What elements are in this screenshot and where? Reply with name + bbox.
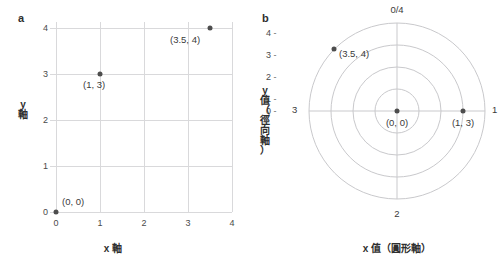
- panel-b-polar: b 0/4 1 2 3 4 - 3 -: [250, 0, 501, 267]
- x-tick-label-3: 3: [185, 218, 190, 228]
- gridline-vertical-0: [56, 22, 57, 212]
- y-tick-label-4: 4: [43, 23, 48, 33]
- polar-data-point-1-3: [461, 109, 466, 114]
- data-point-3.5-4: [208, 26, 213, 31]
- x-tick-label-2: 2: [141, 218, 146, 228]
- polar-plot-area: 0/4 1 2 3 4 - 3 - 2 - 1 - 0 - (0, 0) (1,…: [308, 22, 486, 200]
- gridline-vertical-2: [144, 22, 145, 212]
- data-point-label-3.5-4: (3.5, 4): [170, 34, 200, 45]
- polar-angle-label-top: 0/4: [390, 4, 403, 15]
- gridline-horizontal-2: [50, 120, 232, 121]
- polar-radial-tick-1-dash: -: [271, 94, 277, 104]
- polar-data-point-3.5-4: [332, 47, 337, 52]
- polar-data-point-0-0: [395, 109, 400, 114]
- panel-a-cartesian: a 0 1 2 3 4 0 1 2 3 4: [0, 0, 250, 267]
- data-point-label-0-0: (0, 0): [62, 196, 84, 207]
- polar-y-axis-title-char-6: ）: [260, 146, 270, 156]
- x-tick-label-1: 1: [97, 218, 102, 228]
- gridline-horizontal-1: [50, 166, 232, 167]
- polar-radial-tick-2-dash: -: [271, 72, 277, 82]
- cartesian-plot-area: 0 1 2 3 4 0 1 2 3 4 (0, 0) (1, 3) (3.5, …: [56, 28, 232, 212]
- cartesian-x-axis-title: x 軸: [104, 240, 122, 255]
- data-point-0-0: [54, 210, 59, 215]
- y-tick-label-3: 3: [43, 69, 48, 79]
- gridline-vertical-1: [100, 22, 101, 212]
- polar-y-axis-title: y 值 （ 徑 向 軸 ）: [260, 86, 270, 156]
- data-point-label-1-3: (1, 3): [83, 79, 105, 90]
- polar-angle-label-bottom: 2: [394, 208, 399, 219]
- data-point-1-3: [98, 72, 103, 77]
- polar-data-point-label-3.5-4: (3.5, 4): [339, 48, 369, 59]
- gridline-horizontal-3: [50, 74, 232, 75]
- polar-radial-tick-4: 4 -: [266, 28, 277, 38]
- polar-radial-tick-3: 3 -: [266, 50, 277, 60]
- polar-radial-tick-2: 2 -: [266, 72, 277, 82]
- figure-container: a 0 1 2 3 4 0 1 2 3 4: [0, 0, 501, 267]
- y-tick-label-2: 2: [43, 115, 48, 125]
- polar-radial-tick-3-dash: -: [271, 50, 277, 60]
- panel-letter-a: a: [18, 12, 24, 24]
- gridline-horizontal-0: [50, 212, 232, 213]
- y-tick-label-1: 1: [43, 161, 48, 171]
- polar-angle-label-right: 1: [492, 104, 497, 115]
- x-tick-label-0: 0: [53, 218, 58, 228]
- gridline-vertical-3: [188, 22, 189, 212]
- polar-data-point-label-0-0: (0, 0): [386, 117, 408, 128]
- polar-radial-tick-0-dash: -: [271, 106, 277, 116]
- x-tick-label-4: 4: [229, 218, 234, 228]
- polar-data-point-label-1-3: (1, 3): [452, 117, 474, 128]
- polar-radial-tick-4-dash: -: [271, 28, 277, 38]
- cartesian-y-axis-title: y 軸: [18, 100, 28, 120]
- polar-angle-label-left: 3: [292, 104, 297, 115]
- gridline-horizontal-4: [50, 28, 232, 29]
- polar-x-axis-title: x 值（圓形軸）: [363, 240, 431, 255]
- gridline-vertical-4: [232, 22, 233, 212]
- y-tick-label-0: 0: [43, 207, 48, 217]
- panel-letter-b: b: [262, 12, 269, 24]
- cartesian-y-axis-title-char-1: 軸: [18, 110, 28, 120]
